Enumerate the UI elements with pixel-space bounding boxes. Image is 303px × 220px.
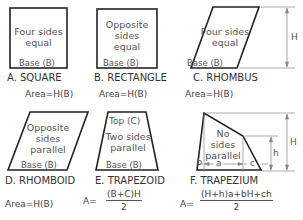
trapezoid-area-numerator: (B+C)H: [106, 190, 142, 201]
trapezoid-area-formula: (B+C)H 2: [106, 190, 142, 212]
trapezoid-title: E. TRAPEZOID: [95, 176, 165, 186]
square-desc-line1: Four sides: [10, 26, 67, 37]
rhombus-height-label: H: [291, 33, 298, 42]
trapezium-area-denominator: 2: [200, 201, 273, 212]
rectangle-description: Opposite sides equal: [97, 19, 157, 52]
rhombus-desc-line2: equal: [195, 37, 255, 48]
rhombus-desc-line1: Four sides: [195, 26, 255, 37]
trapezoid-description: Two sides parallel: [98, 131, 158, 153]
trapezium-dim-a: a: [216, 159, 222, 168]
rhomboid-desc-line1: Opposite: [18, 122, 78, 133]
trapezoid-area-prefix: A=: [83, 197, 97, 206]
rectangle-desc-line1: Opposite: [97, 19, 157, 30]
square-description: Four sides equal: [10, 26, 67, 48]
trapezium-area-prefix: A=: [180, 200, 194, 209]
rectangle-base-label: Base (B): [103, 59, 139, 68]
rhomboid-desc-line3: parallel: [18, 144, 78, 155]
rectangle-title: B. RECTANGLE: [94, 73, 167, 83]
trapezium-description: No sides parallel: [201, 128, 245, 161]
trapezium-dim-h: h: [273, 149, 279, 158]
rhomboid-description: Opposite sides parallel: [18, 122, 78, 155]
trapezium-area-formula: (H+h)a+bH+ch 2: [200, 190, 273, 212]
trapezium-dim-H: H: [290, 138, 297, 147]
trapezoid-desc-line2: parallel: [98, 142, 158, 153]
square-base-label: Base (B): [19, 59, 55, 68]
rhomboid-desc-line2: sides: [18, 133, 78, 144]
rectangle-area-formula: Area=H(B): [99, 90, 147, 99]
rhombus-title: C. RHOMBUS: [193, 73, 258, 83]
trapezoid-base-label: Base (B): [106, 161, 142, 170]
trapezoid-area-denominator: 2: [106, 201, 142, 212]
rhombus-base-label: Base (B): [187, 59, 223, 68]
trapezoid-top-label: Top (C): [109, 117, 140, 126]
square-title: A. SQUARE: [7, 73, 62, 83]
square-desc-line2: equal: [10, 37, 67, 48]
trapezium-dim-c: c: [250, 159, 255, 168]
rhomboid-area-formula: Area=H(B): [5, 200, 53, 209]
rectangle-desc-line3: equal: [97, 41, 157, 52]
trapezium-title: F. TRAPEZIUM: [190, 176, 258, 186]
trapezium-area-numerator: (H+h)a+bH+ch: [200, 190, 273, 201]
rhombus-area-formula: Area=H(B): [185, 90, 233, 99]
rhomboid-title: D. RHOMBOID: [5, 176, 75, 186]
rhombus-description: Four sides equal: [195, 26, 255, 48]
square-area-formula: Area=H(B): [25, 90, 73, 99]
trapezoid-desc-line1: Two sides: [98, 131, 158, 142]
rectangle-desc-line2: sides: [97, 30, 157, 41]
trapezium-desc-line1: No: [201, 128, 245, 139]
rhomboid-base-label: Base (B): [21, 161, 57, 170]
trapezium-desc-line3: parallel: [201, 150, 245, 161]
trapezium-dim-b: b: [197, 159, 202, 167]
trapezium-desc-line2: sides: [201, 139, 245, 150]
